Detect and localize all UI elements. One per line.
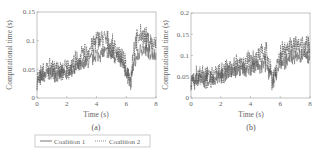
y-axis-label-b: Computational time (s) — [161, 20, 170, 90]
caption-a: (a) — [92, 123, 101, 132]
series-b — [191, 36, 310, 91]
x-tick-label: 8 — [308, 100, 312, 108]
x-tick-label: 0 — [35, 100, 39, 108]
series-coalition-1 — [37, 44, 156, 90]
x-tick-label: 8 — [154, 100, 158, 108]
legend: Coalition 1 Coalition 2 — [35, 135, 150, 147]
chart-panel-a: 00.050.10.15 02468 Computational time (s… — [5, 8, 158, 132]
y-tick-label: 0.15 — [23, 8, 36, 16]
legend-label-coalition-1: Coalition 1 — [54, 138, 86, 146]
x-tick-label: 6 — [125, 100, 129, 108]
y-ticks-b: 00.050.10.150.2 — [177, 9, 193, 102]
chart-panel-b: 00.050.10.150.2 02468 Computational time… — [161, 9, 312, 132]
x-tick-label: 2 — [65, 100, 69, 108]
x-tick-label: 2 — [219, 100, 223, 108]
legend-label-coalition-2: Coalition 2 — [109, 138, 141, 146]
x-axis-label-a: Time (s) — [83, 110, 109, 119]
y-tick-label: 0.1 — [180, 52, 189, 60]
y-tick-label: 0.1 — [26, 37, 35, 45]
y-tick-label: 0.2 — [180, 9, 189, 17]
figure: 00.050.10.15 02468 Computational time (s… — [0, 0, 327, 157]
x-axis-label-b: Time (s) — [238, 110, 264, 119]
x-tick-label: 4 — [95, 100, 99, 108]
y-tick-label: 0.05 — [177, 73, 190, 81]
y-tick-label: 0.05 — [23, 66, 36, 74]
y-axis-label-a: Computational time (s) — [5, 20, 14, 90]
caption-b: (b) — [246, 123, 256, 132]
y-ticks-a: 00.050.10.15 — [23, 8, 39, 102]
x-tick-label: 4 — [249, 100, 253, 108]
x-tick-label: 0 — [189, 100, 193, 108]
series-coalition-1 — [191, 48, 310, 91]
y-tick-label: 0.15 — [177, 31, 190, 39]
series-a — [37, 24, 156, 90]
x-tick-label: 6 — [279, 100, 283, 108]
